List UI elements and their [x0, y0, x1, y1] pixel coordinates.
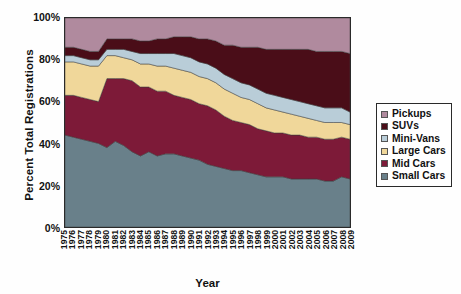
legend-swatch-icon: [381, 123, 388, 130]
legend-swatch-icon: [381, 148, 388, 155]
legend-item[interactable]: Small Cars: [381, 170, 446, 182]
y-tick-label: 0%: [45, 222, 60, 234]
legend-swatch-icon: [381, 135, 388, 142]
y-tick-label: 40%: [39, 138, 60, 150]
legend-item-label: Mini-Vans: [392, 134, 440, 144]
legend-swatch-icon: [381, 160, 388, 167]
plot-area: [64, 17, 351, 228]
y-tick-label: 20%: [39, 180, 60, 192]
x-axis-tick-labels: 1975197619771978197919801981198219831984…: [64, 230, 351, 276]
legend-item[interactable]: SUVs: [381, 120, 446, 132]
legend-item-label: SUVs: [392, 121, 419, 131]
legend-swatch-icon: [381, 173, 388, 180]
legend-item[interactable]: Large Cars: [381, 145, 446, 157]
legend-item-label: Mid Cars: [392, 159, 436, 169]
x-tick-label: 2009: [347, 230, 356, 249]
legend-item[interactable]: Mid Cars: [381, 158, 446, 170]
y-axis-tick-labels: 0%20%40%60%80%100%: [18, 10, 60, 238]
y-tick-label: 60%: [39, 95, 60, 107]
x-axis-title: Year: [64, 277, 351, 289]
legend-item-label: Small Cars: [392, 171, 445, 181]
y-tick-label: 80%: [39, 53, 60, 65]
stacked-area-svg: [65, 18, 350, 227]
chart-figure: Percent Total Registrations 0%20%40%60%8…: [0, 0, 461, 294]
legend-item[interactable]: Pickups: [381, 108, 446, 120]
legend-swatch-icon: [381, 111, 388, 118]
y-tick-label: 100%: [33, 11, 60, 23]
legend-item-label: Large Cars: [392, 146, 446, 156]
legend-item-label: Pickups: [392, 109, 432, 119]
legend-item[interactable]: Mini-Vans: [381, 133, 446, 145]
chart-legend: PickupsSUVsMini-VansLarge CarsMid CarsSm…: [376, 103, 452, 187]
